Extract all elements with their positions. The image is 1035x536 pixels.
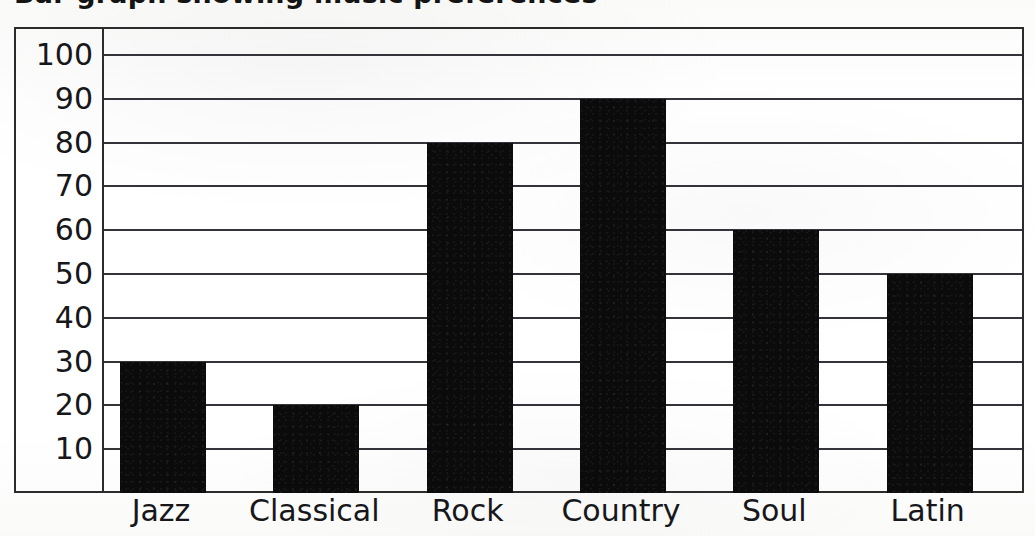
- plot-area: [104, 29, 1022, 491]
- bar-classical[interactable]: [273, 405, 359, 493]
- y-tick-label: 40: [55, 303, 93, 333]
- y-tick-label: 60: [55, 215, 93, 245]
- x-tick-label: Latin: [891, 496, 965, 526]
- x-tick-label: Country: [561, 496, 680, 526]
- y-tick-label: 10: [55, 434, 93, 464]
- bar-soul[interactable]: [733, 230, 819, 493]
- x-tick-label: Soul: [742, 496, 807, 526]
- y-tick-label: 50: [55, 259, 93, 289]
- x-tick-label: Rock: [432, 496, 504, 526]
- bar-country[interactable]: [580, 99, 666, 493]
- x-axis-label-row: JazzClassicalRockCountrySoulLatin: [14, 496, 1024, 536]
- y-tick-label: 30: [55, 347, 93, 377]
- chart-frame: 100908070605040302010: [14, 27, 1024, 493]
- y-tick-label: 100: [36, 40, 93, 70]
- bar-jazz[interactable]: [120, 362, 206, 493]
- bar-latin[interactable]: [887, 274, 973, 493]
- x-tick-label: Jazz: [132, 496, 191, 526]
- chart-title-clipped: Bar graph showing music preferences: [0, 0, 1035, 14]
- y-tick-label: 70: [55, 171, 93, 201]
- chart-title-text: Bar graph showing music preferences: [14, 0, 598, 9]
- bar-rock[interactable]: [427, 143, 513, 493]
- bars-layer: [104, 29, 1022, 491]
- y-tick-label: 20: [55, 390, 93, 420]
- y-tick-label: 80: [55, 128, 93, 158]
- y-axis-label-column: 100908070605040302010: [16, 29, 102, 491]
- y-tick-label: 90: [55, 84, 93, 114]
- x-tick-label: Classical: [249, 496, 379, 526]
